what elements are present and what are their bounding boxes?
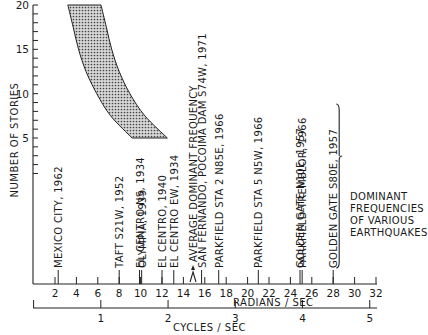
earthquake-label: TAFT S21W, 1952 [114, 176, 125, 269]
earthquake-label: SAN FERNANDO, POCOIMA DAM S74W, 1971 [197, 33, 208, 268]
earthquake-marker: PARKFIELD STA 5 N5W, 1966 [253, 117, 264, 284]
frequency-chart: 5101520 2468101214161820222426283032 123… [0, 0, 428, 335]
earthquake-label: OLYMPIA, 1939 [137, 190, 148, 268]
x2-ticks: 12345 [34, 300, 373, 324]
earthquake-marker: TAFT S21W, 1952 [114, 176, 125, 284]
x-tick-label: 16 [198, 287, 212, 299]
earthquake-label: MEXICO CITY, 1962 [53, 166, 64, 268]
x-axis-title: RADIANS / SEC [233, 297, 314, 308]
earthquake-label: GOLDEN GATE S80E, 1957 [328, 129, 339, 268]
x-tick-label: 32 [369, 287, 382, 299]
x2-tick-label: 5 [366, 312, 373, 324]
earthquake-label: PARKFIELD STA 2 N85E, 1966 [214, 113, 225, 268]
annotation-line: OF VARIOUS [350, 215, 414, 226]
annotation-line: FREQUENCIES [350, 203, 424, 214]
earthquake-marker: MEXICO CITY, 1962 [53, 166, 64, 284]
earthquake-label: EL CENTRO, 1940 [157, 175, 168, 268]
x-tick-label: 14 [177, 287, 191, 299]
x-tick-label: 4 [73, 287, 80, 299]
y-tick-label: 20 [16, 0, 29, 11]
x2-tick-label: 4 [299, 312, 306, 324]
earthquake-marker: OLYMPIA, 1939 [137, 190, 148, 284]
average-marker [190, 272, 196, 282]
x2-tick-label: 1 [97, 312, 104, 324]
x2-tick-label: 2 [165, 312, 172, 324]
earthquake-marker: EL CENTRO, 1940 [157, 175, 168, 284]
x-tick-label: 10 [134, 287, 147, 299]
arrow-icon [191, 265, 195, 270]
earthquake-label: EL CENTRO EW, 1934 [169, 155, 180, 268]
y-axis-title: NUMBER OF STORIES [9, 83, 20, 198]
x-tick-label: 28 [327, 287, 340, 299]
x2-axis-title: CYCLES / SEC [173, 322, 246, 333]
y-tick-label: 15 [16, 43, 29, 55]
earthquake-marker: GOLDEN GATE S80E, 1957 [328, 129, 339, 284]
y-tick-label: 5 [22, 132, 29, 144]
frequency-band [68, 5, 168, 138]
x-tick-label: 30 [348, 287, 361, 299]
x-tick-label: 18 [220, 287, 233, 299]
x-tick-label: 6 [94, 287, 101, 299]
annotation-line: DOMINANT [350, 191, 408, 202]
x-tick-label: 2 [52, 287, 59, 299]
earthquake-marker: SAN FERNANDO, POCOIMA DAM S74W, 1971 [197, 33, 208, 284]
annotation-line: EARTHQUAKES [350, 227, 428, 238]
annotation: DOMINANT FREQUENCIES OF VARIOUS EARTHQUA… [350, 191, 428, 238]
earthquake-marker: PARKFIELD STA 2 N85E, 1966 [214, 113, 225, 284]
earthquake-marker: PARKFIELD-TREMBLOR, 1966 [297, 117, 308, 284]
earthquake-label: PARKFIELD STA 5 N5W, 1966 [253, 117, 264, 268]
earthquake-marker: EL CENTRO EW, 1934 [169, 155, 180, 284]
x-tick-label: 8 [116, 287, 123, 299]
x-tick-label: 12 [155, 287, 168, 299]
earthquake-label: PARKFIELD-TREMBLOR, 1966 [297, 117, 308, 268]
